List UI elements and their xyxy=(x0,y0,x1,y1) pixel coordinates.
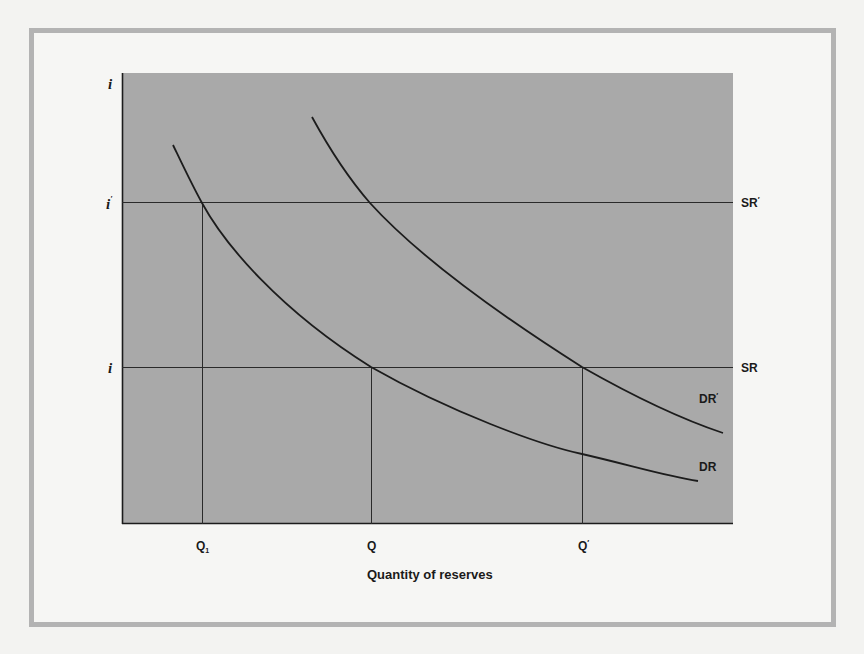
plot-area xyxy=(122,73,733,524)
q-prime-label: Q′ xyxy=(578,538,589,553)
i-prime-label: i′ xyxy=(106,194,113,212)
q-label: Q xyxy=(367,539,376,553)
y-axis-label: i xyxy=(108,76,113,92)
sr-label: SR xyxy=(741,361,758,375)
i-label: i xyxy=(108,360,113,376)
chart: i i′ i SR′ SR DR′ DR Q1 Q Q′ Quantity of… xyxy=(0,0,864,654)
q1-label: Q1 xyxy=(196,539,209,554)
sr-prime-label: SR′ xyxy=(741,195,760,210)
x-axis-label: Quantity of reserves xyxy=(367,567,493,582)
dr-prime-label: DR′ xyxy=(699,391,718,406)
dr-label: DR xyxy=(699,460,717,474)
